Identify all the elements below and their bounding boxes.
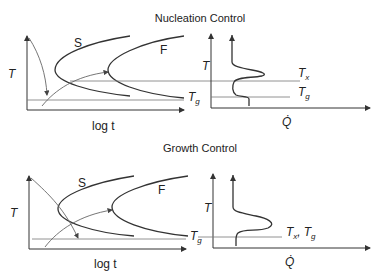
s-curve-label: S	[74, 36, 82, 50]
tx-tg-label: Tx,Tg	[286, 225, 316, 241]
f-curve-label: F	[158, 183, 165, 197]
growth-control-panel: Growth Control T log t S F Tg T Q̇ T	[10, 142, 370, 271]
dsc-diagram-growth: T Q̇ Tx,Tg	[198, 174, 370, 269]
y-axis-label: T	[202, 59, 211, 73]
s-curve	[58, 176, 134, 236]
panel-title-nucleation: Nucleation Control	[155, 12, 246, 24]
x-axis-label: log t	[92, 119, 115, 133]
dsc-trace-arrowhead	[229, 35, 235, 41]
s-curve-label: S	[78, 176, 86, 190]
tg-label: Tg	[188, 90, 200, 106]
x-axis-label: Q̇	[282, 115, 291, 129]
y-axis-label: T	[8, 67, 17, 81]
f-curve-label: F	[160, 43, 167, 57]
quench-path-arrow	[31, 178, 78, 238]
heating-path-arrow	[42, 72, 108, 106]
s-curve	[55, 36, 130, 96]
ttt-diagram-growth: T log t S F Tg	[10, 176, 202, 271]
y-axis-label: T	[204, 201, 213, 215]
y-axis-label: T	[10, 206, 19, 220]
dsc-trace-arrowhead	[230, 175, 236, 181]
x-axis-label: log t	[94, 257, 117, 271]
diagram-canvas: Nucleation Control T log t S F Tg	[0, 0, 381, 276]
panel-title-growth: Growth Control	[163, 142, 237, 154]
dsc-diagram-nucleation: T Q̇ Tx Tg	[202, 34, 370, 129]
f-curve	[108, 36, 184, 98]
nucleation-control-panel: Nucleation Control T log t S F Tg	[8, 12, 370, 133]
tx-label: Tx	[298, 66, 310, 82]
quench-path-arrow	[29, 38, 47, 95]
x-axis-label: Q̇	[285, 255, 294, 269]
dsc-trace	[233, 175, 272, 246]
dsc-trace	[232, 35, 264, 106]
ttt-diagram-nucleation: T log t S F Tg	[8, 36, 300, 133]
heating-path-arrow	[45, 210, 112, 247]
tg-label: Tg	[298, 85, 310, 101]
f-curve	[112, 176, 188, 236]
